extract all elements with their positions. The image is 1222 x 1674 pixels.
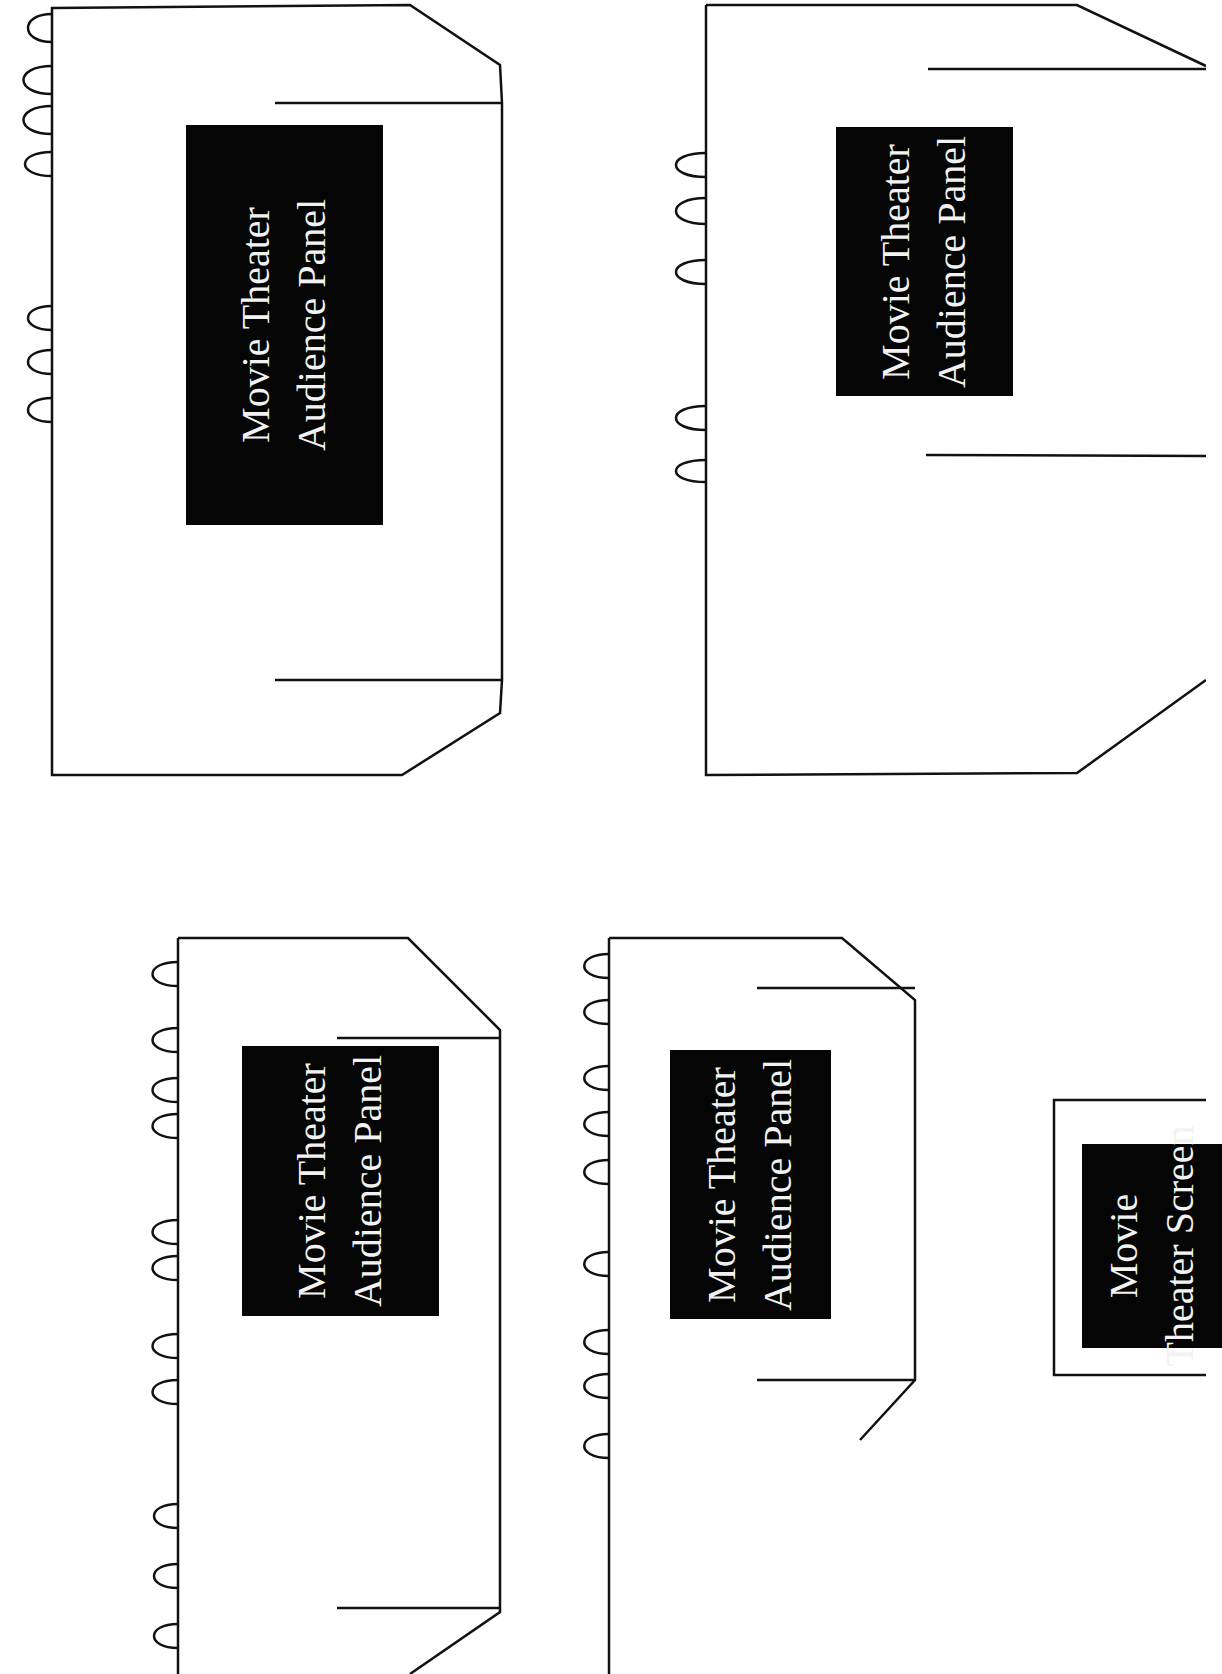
label-line-2: Audience Panel bbox=[285, 199, 341, 451]
glue-tabs-left bbox=[24, 14, 53, 422]
label-line-2: Audience Panel bbox=[925, 135, 981, 387]
audience-panel-label-3: Movie Theater Audience Panel bbox=[242, 1046, 439, 1316]
label-text: Movie Theater Screen bbox=[1096, 1126, 1208, 1367]
label-text: Movie Theater Audience Panel bbox=[285, 1055, 397, 1307]
label-line-1: Movie Theater bbox=[229, 199, 285, 451]
label-text: Movie Theater Audience Panel bbox=[229, 199, 341, 451]
audience-panel-label-1: Movie Theater Audience Panel bbox=[186, 125, 383, 525]
label-line-2: Theater Screen bbox=[1152, 1126, 1208, 1367]
label-line-1: Movie Theater bbox=[695, 1058, 751, 1310]
label-line-1: Movie Theater bbox=[869, 135, 925, 387]
label-line-2: Audience Panel bbox=[341, 1055, 397, 1307]
glue-tabs-left bbox=[153, 962, 179, 1648]
audience-panel-label-2: Movie Theater Audience Panel bbox=[836, 127, 1013, 396]
glue-tabs-left bbox=[676, 153, 706, 482]
label-text: Movie Theater Audience Panel bbox=[869, 135, 981, 387]
audience-panel-label-4: Movie Theater Audience Panel bbox=[670, 1050, 831, 1319]
label-text: Movie Theater Audience Panel bbox=[695, 1058, 807, 1310]
label-line-1: Movie Theater bbox=[285, 1055, 341, 1307]
glue-tabs-left bbox=[584, 954, 609, 1458]
label-line-1: Movie bbox=[1096, 1126, 1152, 1367]
label-line-2: Audience Panel bbox=[751, 1058, 807, 1310]
screen-label: Movie Theater Screen bbox=[1082, 1144, 1222, 1348]
